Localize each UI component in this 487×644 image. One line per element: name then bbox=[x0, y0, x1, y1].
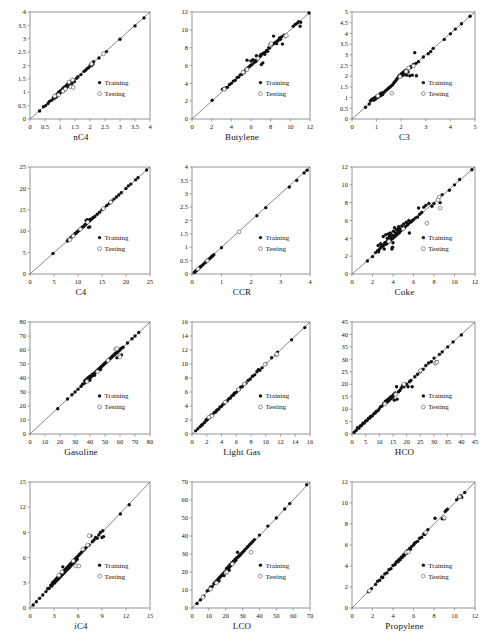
data-point-training bbox=[102, 535, 105, 538]
x-tick-label: 1 bbox=[375, 123, 378, 130]
y-tick-label: 60 bbox=[182, 496, 188, 503]
data-point-training bbox=[416, 215, 419, 218]
y-tick-label: 3 bbox=[23, 579, 26, 586]
x-tick-label: 30 bbox=[72, 438, 78, 445]
data-point-training bbox=[236, 551, 239, 554]
data-point-training bbox=[283, 507, 286, 510]
data-point-testing bbox=[71, 86, 75, 90]
data-point-training bbox=[68, 564, 71, 567]
data-point-training bbox=[76, 75, 79, 78]
y-tick-label: 0 bbox=[23, 270, 26, 277]
data-point-training bbox=[260, 366, 263, 369]
y-tick-label: 8 bbox=[185, 44, 188, 51]
legend-marker-training bbox=[259, 394, 262, 397]
data-point-training bbox=[416, 540, 419, 543]
data-point-testing bbox=[241, 70, 245, 74]
y-tick-label: 4 bbox=[23, 8, 27, 15]
y-tick-label: 1 bbox=[23, 88, 26, 95]
y-tick-label: 4 bbox=[345, 30, 349, 37]
data-point-training bbox=[468, 15, 471, 18]
data-point-training bbox=[374, 410, 377, 413]
data-point-training bbox=[438, 353, 441, 356]
legend: TrainingTesting bbox=[259, 562, 290, 581]
data-point-training bbox=[253, 538, 256, 541]
legend: TrainingTesting bbox=[259, 79, 290, 98]
y-tick-label: 0 bbox=[23, 115, 26, 122]
legend-marker-testing bbox=[259, 405, 263, 409]
data-point-testing bbox=[376, 94, 380, 98]
data-point-testing bbox=[242, 382, 246, 386]
y-tick-label: 3.5 bbox=[180, 177, 188, 184]
data-point-training bbox=[61, 565, 64, 568]
x-tick-label: 5 bbox=[52, 278, 55, 285]
data-point-training bbox=[128, 503, 131, 506]
x-tick-label: 20 bbox=[223, 612, 229, 619]
y-tick-label: 12 bbox=[342, 478, 348, 485]
x-tick-label: 4 bbox=[391, 612, 395, 619]
x-tick-label: 15 bbox=[390, 438, 396, 445]
y-tick-label: 50 bbox=[182, 514, 188, 521]
data-point-training bbox=[124, 187, 127, 190]
legend-marker-training bbox=[422, 236, 425, 239]
y-tick-label: 80 bbox=[20, 318, 26, 325]
x-tick-label: 45 bbox=[472, 438, 478, 445]
x-tick-label: 2 bbox=[371, 612, 374, 619]
legend: TrainingTesting bbox=[98, 562, 129, 581]
y-tick-label: 1 bbox=[185, 243, 188, 250]
y-tick-label: 0 bbox=[345, 430, 348, 437]
data-point-training bbox=[427, 202, 430, 205]
x-tick-label: 4 bbox=[220, 438, 224, 445]
data-point-training bbox=[448, 188, 451, 191]
data-point-testing bbox=[90, 62, 94, 66]
data-point-training bbox=[215, 409, 218, 412]
y-tick-label: 0 bbox=[23, 430, 26, 437]
data-point-training bbox=[266, 50, 269, 53]
legend-marker-testing bbox=[421, 574, 425, 578]
y-tick-label: 30 bbox=[20, 388, 26, 395]
x-tick-label: 10 bbox=[451, 612, 457, 619]
data-point-training bbox=[395, 397, 398, 400]
data-point-training bbox=[76, 388, 79, 391]
x-tick-label: 5 bbox=[364, 438, 367, 445]
plot-area: 024681012024681012TrainingTesting bbox=[322, 155, 487, 296]
data-point-training bbox=[431, 47, 434, 50]
data-point-testing bbox=[237, 230, 241, 234]
y-tick-label: 40 bbox=[342, 331, 348, 338]
y-tick-label: 5 bbox=[23, 249, 26, 256]
y-tick-label: 10 bbox=[342, 181, 348, 188]
data-point-training bbox=[130, 337, 133, 340]
y-tick-label: 10 bbox=[182, 26, 188, 33]
data-point-testing bbox=[412, 64, 416, 68]
data-point-training bbox=[420, 211, 423, 214]
data-point-training bbox=[433, 517, 436, 520]
data-point-training bbox=[261, 61, 264, 64]
x-tick-label: 10 bbox=[206, 612, 212, 619]
data-point-testing bbox=[57, 573, 61, 577]
series-training bbox=[195, 483, 308, 605]
data-point-training bbox=[70, 393, 73, 396]
panel-butylene: 024681012024681012TrainingTestingButylen… bbox=[162, 0, 322, 155]
data-point-testing bbox=[368, 589, 372, 593]
x-tick-label: 4 bbox=[449, 123, 453, 130]
x-tick-label: 0 bbox=[350, 123, 353, 130]
plot-area: 00.511.522.533.5400.511.522.533.54Traini… bbox=[0, 0, 162, 141]
x-axis-title: iC4 bbox=[0, 621, 162, 631]
x-axis-title: CCR bbox=[162, 287, 322, 297]
y-tick-label: 70 bbox=[182, 478, 188, 485]
x-tick-label: 8 bbox=[269, 123, 272, 130]
y-tick-label: 1 bbox=[345, 94, 348, 101]
data-point-testing bbox=[390, 91, 394, 95]
legend-marker-testing bbox=[98, 92, 102, 96]
legend: TrainingTesting bbox=[259, 234, 290, 253]
data-point-testing bbox=[96, 370, 100, 374]
y-tick-label: 50 bbox=[20, 360, 26, 367]
x-tick-label: 30 bbox=[431, 438, 437, 445]
data-point-training bbox=[38, 109, 41, 112]
data-point-training bbox=[298, 25, 301, 28]
data-point-testing bbox=[225, 570, 229, 574]
plot-area: 024681012024681012TrainingTesting bbox=[322, 470, 487, 630]
legend-label-testing: Testing bbox=[428, 245, 449, 253]
data-point-testing bbox=[115, 347, 119, 351]
y-tick-label: 2 bbox=[345, 72, 348, 79]
data-point-testing bbox=[71, 234, 75, 238]
